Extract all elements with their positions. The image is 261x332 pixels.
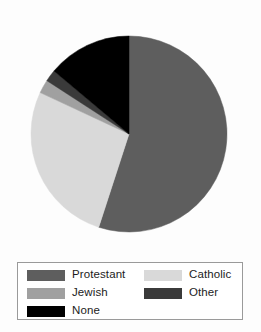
- legend-swatch-other: [144, 288, 182, 299]
- legend-item-jewish[interactable]: Jewish: [27, 284, 144, 302]
- legend-swatch-protestant: [27, 270, 65, 281]
- legend-grid: Protestant Catholic Jewish Other None: [18, 263, 242, 319]
- legend-swatch-jewish: [27, 288, 65, 299]
- pie-slice-group: [31, 36, 227, 232]
- legend-item-other[interactable]: Other: [144, 284, 251, 302]
- legend-label-protestant: Protestant: [72, 269, 125, 281]
- legend-swatch-catholic: [144, 270, 182, 281]
- pie-plot-area: [0, 0, 261, 256]
- legend-label-other: Other: [189, 287, 218, 299]
- legend-label-catholic: Catholic: [189, 269, 231, 281]
- legend-item-none[interactable]: None: [27, 302, 144, 320]
- pie-chart-svg: [0, 0, 261, 256]
- chart-legend: Protestant Catholic Jewish Other None: [17, 262, 243, 320]
- legend-label-none: None: [72, 305, 100, 317]
- legend-swatch-none: [27, 306, 65, 317]
- legend-item-protestant[interactable]: Protestant: [27, 266, 144, 284]
- legend-label-jewish: Jewish: [72, 287, 108, 299]
- pie-chart-figure: Protestant Catholic Jewish Other None: [0, 0, 261, 332]
- legend-item-catholic[interactable]: Catholic: [144, 266, 251, 284]
